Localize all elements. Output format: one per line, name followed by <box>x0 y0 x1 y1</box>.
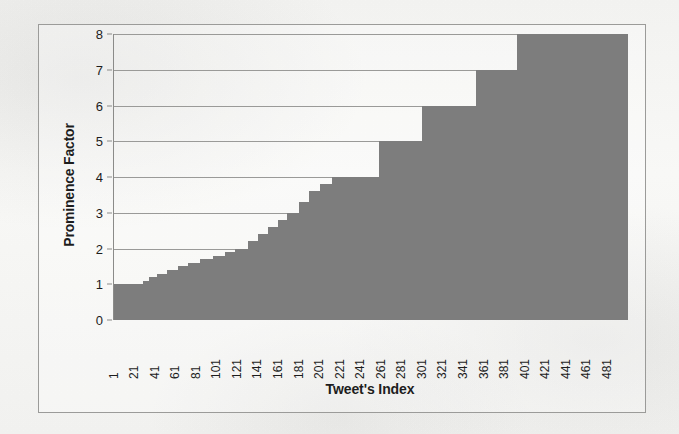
x-tick-label-41: 41 <box>148 327 162 379</box>
y-tick-mark-7 <box>107 69 112 70</box>
x-tick-label-181: 181 <box>292 327 306 379</box>
figure-frame: Prominence Factor 012345678 121416181101… <box>38 24 646 413</box>
x-tick-label-401: 401 <box>518 327 532 379</box>
x-axis-title: Tweet's Index <box>113 381 627 397</box>
y-tick-label-0: 0 <box>96 314 103 327</box>
y-tick-label-7: 7 <box>96 63 103 76</box>
y-tick-label-4: 4 <box>96 171 103 184</box>
x-tick-label-21: 21 <box>127 327 141 379</box>
y-tick-label-1: 1 <box>96 278 103 291</box>
x-tick-label-441: 441 <box>559 327 573 379</box>
x-tick-label-161: 161 <box>271 327 285 379</box>
y-tick-mark-3 <box>107 212 112 213</box>
y-axis-tick-labels: 012345678 <box>79 34 107 320</box>
y-tick-mark-1 <box>107 284 112 285</box>
y-axis-title: Prominence Factor <box>59 75 79 295</box>
x-tick-label-321: 321 <box>435 327 449 379</box>
bar <box>627 34 628 320</box>
y-tick-label-3: 3 <box>96 206 103 219</box>
x-tick-label-281: 281 <box>394 327 408 379</box>
x-tick-label-421: 421 <box>538 327 552 379</box>
y-tick-mark-4 <box>107 177 112 178</box>
x-tick-label-201: 201 <box>312 327 326 379</box>
x-tick-label-81: 81 <box>189 327 203 379</box>
y-tick-mark-0 <box>107 320 112 321</box>
x-tick-label-301: 301 <box>415 327 429 379</box>
bar-series <box>114 34 628 320</box>
y-tick-mark-2 <box>107 248 112 249</box>
y-tick-mark-6 <box>107 105 112 106</box>
plot-area <box>113 34 628 320</box>
x-tick-label-141: 141 <box>250 327 264 379</box>
y-tick-label-8: 8 <box>96 28 103 41</box>
x-tick-label-1: 1 <box>107 327 121 379</box>
y-tick-mark-8 <box>107 34 112 35</box>
x-tick-label-481: 481 <box>600 327 614 379</box>
x-tick-label-101: 101 <box>209 327 223 379</box>
y-tick-label-2: 2 <box>96 242 103 255</box>
y-tick-label-5: 5 <box>96 135 103 148</box>
x-axis-tick-labels: 1214161811011211411611812012212412612813… <box>113 323 627 379</box>
y-tick-mark-5 <box>107 141 112 142</box>
x-tick-label-381: 381 <box>497 327 511 379</box>
x-tick-label-241: 241 <box>353 327 367 379</box>
prominence-factor-chart: Prominence Factor 012345678 121416181101… <box>39 25 647 414</box>
x-tick-label-361: 361 <box>477 327 491 379</box>
x-tick-label-61: 61 <box>168 327 182 379</box>
x-tick-label-341: 341 <box>456 327 470 379</box>
x-tick-label-461: 461 <box>579 327 593 379</box>
y-tick-label-6: 6 <box>96 99 103 112</box>
x-tick-label-261: 261 <box>374 327 388 379</box>
x-tick-label-121: 121 <box>230 327 244 379</box>
x-tick-label-221: 221 <box>333 327 347 379</box>
